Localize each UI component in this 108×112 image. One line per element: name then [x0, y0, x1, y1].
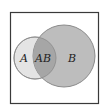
- venn-diagram: A AB B: [0, 0, 108, 112]
- set-b-label: B: [67, 52, 76, 65]
- set-a-label: A: [19, 52, 28, 65]
- intersection-label: AB: [34, 52, 51, 65]
